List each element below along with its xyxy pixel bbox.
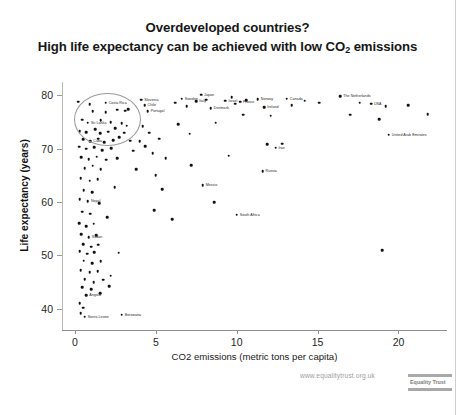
x-tick-mark bbox=[156, 330, 157, 334]
data-point-label: Portugal bbox=[151, 109, 165, 113]
y-tick-mark bbox=[57, 255, 62, 256]
data-point-label: USA bbox=[374, 102, 382, 106]
y-tick-mark bbox=[57, 95, 62, 96]
data-point bbox=[224, 99, 227, 102]
data-point bbox=[78, 250, 81, 253]
data-point bbox=[161, 188, 164, 191]
y-tick-mark bbox=[57, 149, 62, 150]
data-point bbox=[110, 147, 113, 150]
y-tick-mark bbox=[57, 309, 62, 310]
y-tick-mark bbox=[57, 202, 62, 203]
data-point bbox=[158, 137, 161, 140]
data-point bbox=[164, 157, 167, 160]
data-point-label: United Arab Emirates bbox=[392, 133, 427, 137]
data-point bbox=[95, 234, 98, 237]
data-point bbox=[109, 274, 112, 277]
data-point bbox=[93, 251, 96, 254]
data-point bbox=[155, 174, 158, 177]
x-tick-mark bbox=[318, 330, 319, 334]
data-point bbox=[227, 154, 230, 157]
data-point bbox=[81, 210, 84, 213]
data-point bbox=[78, 302, 81, 305]
data-point bbox=[387, 134, 390, 137]
data-point bbox=[83, 259, 86, 262]
data-point bbox=[116, 157, 119, 160]
data-point bbox=[85, 225, 88, 228]
data-point bbox=[77, 100, 80, 103]
data-point bbox=[88, 179, 91, 182]
data-point bbox=[80, 156, 83, 159]
data-point-label: Norway bbox=[261, 97, 273, 101]
cluster-ellipse-annotation bbox=[74, 93, 141, 146]
data-point bbox=[151, 152, 154, 155]
data-point bbox=[80, 233, 83, 236]
data-point bbox=[210, 107, 213, 110]
data-point bbox=[384, 105, 387, 108]
data-point bbox=[97, 243, 100, 246]
data-point bbox=[102, 279, 105, 282]
equality-trust-logo: Equality Trust bbox=[408, 374, 452, 391]
data-point bbox=[90, 288, 93, 291]
chart-title-line-2-post: emissions bbox=[350, 39, 417, 54]
data-point bbox=[148, 131, 151, 134]
data-point bbox=[174, 102, 177, 105]
data-point bbox=[83, 278, 86, 281]
data-point bbox=[140, 98, 143, 101]
data-point bbox=[93, 146, 96, 149]
data-point-label: Botswana bbox=[125, 313, 141, 317]
data-point-label: Iran bbox=[279, 146, 285, 150]
data-point bbox=[132, 150, 135, 153]
chart-title-line-2-pre: High life expectancy can be achieved wit… bbox=[38, 39, 345, 54]
x-tick-label: 15 bbox=[312, 336, 324, 348]
data-point bbox=[96, 270, 99, 273]
data-point bbox=[153, 209, 156, 212]
data-point bbox=[231, 96, 234, 99]
data-point bbox=[83, 315, 86, 318]
logo-bar-bottom bbox=[408, 388, 452, 391]
data-point bbox=[121, 313, 124, 316]
data-point bbox=[235, 214, 238, 217]
data-point bbox=[113, 186, 116, 189]
data-point bbox=[266, 143, 269, 146]
data-point bbox=[78, 198, 81, 201]
data-point-label: South Africa bbox=[240, 213, 260, 217]
data-point bbox=[89, 212, 92, 215]
data-point bbox=[142, 125, 145, 128]
x-tick-mark bbox=[75, 330, 76, 334]
data-point bbox=[100, 168, 103, 171]
x-tick-mark bbox=[237, 330, 238, 334]
data-point-label: Russia bbox=[266, 169, 277, 173]
data-point bbox=[78, 222, 81, 225]
data-point bbox=[185, 105, 188, 108]
data-point-label: Ireland bbox=[267, 105, 278, 109]
watermark-url: www.equalitytrust.org.uk bbox=[300, 372, 375, 379]
data-point bbox=[91, 191, 94, 194]
y-axis-title: Life expectancy (years) bbox=[19, 86, 30, 306]
data-point bbox=[303, 99, 306, 102]
data-point bbox=[86, 252, 89, 255]
data-point bbox=[274, 146, 277, 149]
data-point-label: Slovenia bbox=[144, 98, 158, 102]
x-tick-label: 0 bbox=[72, 336, 78, 348]
data-point bbox=[349, 113, 352, 116]
data-point bbox=[135, 168, 138, 171]
data-point bbox=[378, 118, 381, 121]
data-point bbox=[138, 140, 141, 143]
data-point bbox=[79, 312, 82, 315]
data-point bbox=[85, 147, 88, 150]
page-border-right bbox=[455, 0, 456, 415]
data-point bbox=[81, 286, 84, 289]
data-point bbox=[358, 102, 361, 105]
data-point bbox=[98, 202, 101, 205]
data-point bbox=[407, 104, 410, 107]
data-point-label: Mexico bbox=[206, 183, 218, 187]
data-point bbox=[92, 281, 95, 284]
data-point bbox=[190, 164, 193, 167]
data-point bbox=[100, 260, 103, 263]
data-point bbox=[82, 243, 85, 246]
data-point bbox=[180, 97, 183, 100]
chart-title-line-2: High life expectancy can be achieved wit… bbox=[0, 37, 455, 60]
data-point bbox=[256, 98, 259, 101]
data-point bbox=[79, 269, 82, 272]
y-axis-spine bbox=[62, 82, 63, 330]
